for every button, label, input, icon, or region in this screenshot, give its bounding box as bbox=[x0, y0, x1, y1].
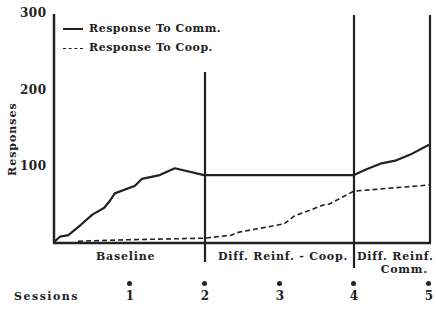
y-axis-label: Responses bbox=[6, 102, 19, 176]
legend-comm: Response To Comm. bbox=[63, 22, 221, 35]
phase-label-comm-line1: Diff. Reinf. bbox=[357, 250, 434, 263]
legend-coop: Response To Coop. bbox=[63, 41, 213, 54]
series-response-to-coop bbox=[78, 185, 429, 241]
x-tick-3: 3 bbox=[270, 289, 290, 303]
session-marker-4 bbox=[351, 281, 356, 286]
y-tick-300: 300 bbox=[20, 6, 47, 20]
y-tick-200: 200 bbox=[20, 83, 47, 97]
y-tick-100: 100 bbox=[20, 159, 47, 173]
legend-comm-label: Response To Comm. bbox=[89, 22, 221, 35]
phase-label-comm-line2: Comm. bbox=[357, 263, 434, 276]
x-tick-5: 5 bbox=[419, 289, 436, 303]
phase-label-baseline: Baseline bbox=[96, 250, 155, 263]
series-response-to-comm bbox=[54, 145, 429, 242]
session-marker-2 bbox=[202, 281, 207, 286]
phase-label-diff-reinf-coop: Diff. Reinf. - Coop. bbox=[218, 250, 348, 263]
x-tick-1: 1 bbox=[120, 289, 140, 303]
session-marker-3 bbox=[277, 281, 282, 286]
x-axis-label: Sessions bbox=[14, 290, 79, 303]
legend-coop-label: Response To Coop. bbox=[89, 41, 213, 54]
legend-solid-line-icon bbox=[63, 28, 83, 30]
x-tick-2: 2 bbox=[195, 289, 215, 303]
session-marker-5 bbox=[426, 281, 431, 286]
phase-label-diff-reinf-comm: Diff. Reinf. Comm. bbox=[357, 250, 434, 276]
session-marker-1 bbox=[127, 281, 132, 286]
legend-dashed-line-icon bbox=[63, 48, 83, 49]
x-tick-4: 4 bbox=[344, 289, 364, 303]
